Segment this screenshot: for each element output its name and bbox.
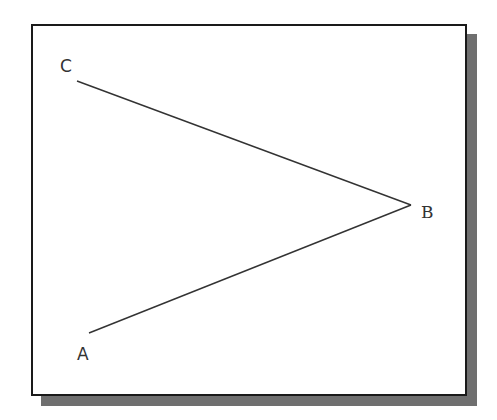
segment-ba	[89, 205, 411, 333]
point-label-b: B	[421, 204, 434, 221]
point-label-c: C	[60, 58, 72, 75]
segment-cb	[77, 81, 411, 205]
point-label-a: A	[77, 346, 89, 363]
